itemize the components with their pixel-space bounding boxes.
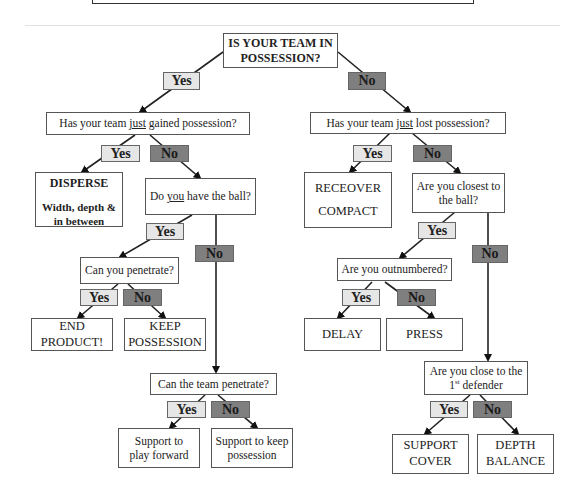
no-label-team-penetrate: No bbox=[211, 401, 250, 418]
no-label-lost: No bbox=[413, 145, 452, 162]
lost-possession-question: Has your team just lost possession? bbox=[310, 112, 506, 134]
yes-label-outnumbered: Yes bbox=[342, 289, 380, 306]
depth-balance-box: DEPTH BALANCE bbox=[477, 434, 554, 474]
no-label-root: No bbox=[348, 72, 386, 90]
yes-label-closest: Yes bbox=[418, 222, 456, 239]
root-question-box: IS YOUR TEAM IN POSSESSION? bbox=[223, 33, 338, 68]
no-label-outnumbered: No bbox=[397, 289, 436, 306]
can-team-penetrate-question: Can the team penetrate? bbox=[150, 373, 277, 395]
delay-box: DELAY bbox=[304, 318, 381, 351]
closest-to-ball-question: Are you closest to the ball? bbox=[412, 173, 505, 213]
yes-label-lost: Yes bbox=[353, 145, 392, 162]
support-cover-box: SUPPORT COVER bbox=[392, 434, 469, 474]
no-label-gained: No bbox=[150, 145, 189, 162]
disperse-box: DISPERSE Width, depth & in between bbox=[35, 172, 123, 227]
yes-label-have-ball: Yes bbox=[146, 223, 184, 240]
support-keep-box: Support to keep possession bbox=[211, 428, 293, 468]
outnumbered-question: Are you outnumbered? bbox=[337, 258, 452, 281]
no-label-defender: No bbox=[473, 401, 512, 418]
press-box: PRESS bbox=[386, 318, 463, 351]
gained-possession-question: Has your team just gained possession? bbox=[46, 112, 250, 135]
close-to-defender-question: Are you close to the 1st defender bbox=[424, 361, 528, 395]
have-ball-question: Do you have the ball? bbox=[145, 178, 256, 215]
support-forward-box: Support to play forward bbox=[118, 428, 200, 468]
yes-label-team-penetrate: Yes bbox=[167, 401, 206, 418]
no-label-closest: No bbox=[472, 245, 508, 263]
yes-label-defender: Yes bbox=[430, 401, 468, 418]
keep-possession-box: KEEP POSSESSION bbox=[124, 318, 206, 351]
yes-label-root: Yes bbox=[163, 72, 200, 90]
recover-compact-box: RECEOVER COMPACT bbox=[304, 172, 392, 228]
yes-label-gained: Yes bbox=[101, 145, 140, 162]
can-you-penetrate-question: Can you penetrate? bbox=[80, 257, 179, 284]
no-label-have-ball: No bbox=[195, 245, 234, 262]
end-product-box: END PRODUCT! bbox=[31, 318, 113, 351]
no-label-penetrate: No bbox=[123, 289, 162, 306]
yes-label-penetrate: Yes bbox=[80, 289, 118, 306]
